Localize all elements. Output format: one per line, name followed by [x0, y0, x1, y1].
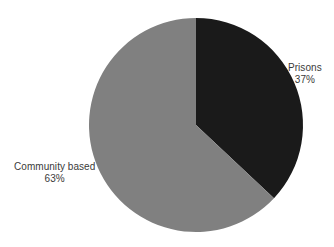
- pie-label-community-based-value: 63%: [14, 173, 95, 185]
- pie-label-community-based-name: Community based: [14, 161, 95, 173]
- pie-label-prisons: Prisons 37%: [288, 62, 322, 85]
- pie-chart-canvas: [0, 0, 334, 247]
- pie-label-community-based: Community based 63%: [14, 161, 95, 184]
- pie-label-prisons-value: 37%: [288, 74, 322, 86]
- pie-label-prisons-name: Prisons: [288, 62, 322, 74]
- pie-chart: Prisons 37% Community based 63%: [0, 0, 334, 247]
